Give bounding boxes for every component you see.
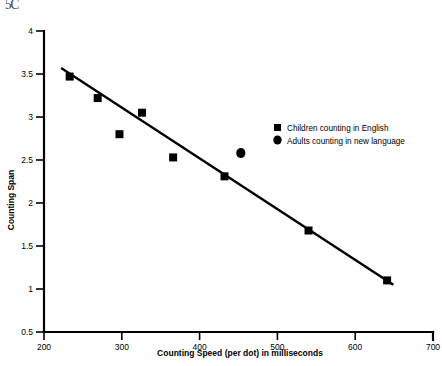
data-point-square <box>169 153 177 161</box>
legend-label-adults: Adults counting in new language <box>287 137 405 146</box>
data-point-square <box>138 109 146 117</box>
y-tick-label: 3.5 <box>21 69 33 79</box>
x-axis-title: Counting Speed (per dot) in milliseconds <box>157 348 323 358</box>
x-tick-label: 700 <box>426 342 440 352</box>
y-tick-label: 2.5 <box>21 155 33 165</box>
y-tick-label: 3 <box>28 112 33 122</box>
y-tick-label: 1 <box>28 284 33 294</box>
chart-legend: Children counting in English Adults coun… <box>273 124 405 146</box>
y-axis-title: Counting Span <box>6 170 16 230</box>
legend-marker-circle <box>273 135 281 144</box>
data-point-square <box>305 227 313 235</box>
y-axis-ticks <box>36 31 44 332</box>
legend-marker-square <box>274 124 281 131</box>
x-tick-label: 200 <box>37 342 51 352</box>
data-point-square <box>66 73 74 81</box>
x-axis-ticks <box>44 332 433 340</box>
legend-label-children: Children counting in English <box>287 124 389 133</box>
chart-container: 5C . 0.511.522.533.54 200300400500600700… <box>0 0 442 366</box>
series-adults-points <box>236 148 245 158</box>
data-point-square <box>115 130 123 138</box>
corner-artifact-subtext: . <box>12 9 13 15</box>
scatter-plot-svg: 0.511.522.533.54 200300400500600700 Coun… <box>0 0 442 366</box>
y-axis-tick-labels: 0.511.522.533.54 <box>21 26 33 337</box>
data-point-square <box>94 94 102 102</box>
y-tick-label: 4 <box>28 26 33 36</box>
x-tick-label: 300 <box>115 342 129 352</box>
y-tick-label: 1.5 <box>21 241 33 251</box>
y-tick-label: 0.5 <box>21 327 33 337</box>
x-tick-label: 600 <box>348 342 362 352</box>
data-point-square <box>383 276 391 284</box>
data-point-square <box>220 172 228 180</box>
y-tick-label: 2 <box>28 198 33 208</box>
data-point-circle <box>236 148 245 158</box>
